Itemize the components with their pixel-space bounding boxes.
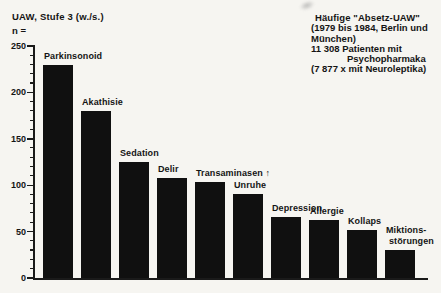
y-axis-minor-tick (30, 157, 33, 158)
y-tick-label-150: 150 (5, 134, 26, 144)
y-axis-minor-tick (30, 240, 33, 241)
bar-label-kollaps: Kollaps (348, 216, 381, 227)
y-tick-label-100: 100 (5, 180, 26, 190)
y-tick-label-250: 250 (5, 41, 26, 51)
bar-depression (271, 217, 301, 278)
y-axis-minor-tick (30, 64, 33, 65)
y-axis-minor-tick (30, 147, 33, 148)
y-axis-minor-tick (30, 82, 33, 83)
bar-delir (157, 178, 187, 278)
bar-unruhe (233, 194, 263, 278)
y-axis-minor-tick (30, 175, 33, 176)
bar-transaminasen (195, 182, 225, 278)
y-axis-major-tick (27, 231, 33, 233)
y-axis-minor-tick (30, 110, 33, 111)
scanned-chart-page: UAW, Stufe 3 (w./s.) n = Häufige "Absetz… (0, 0, 441, 293)
y-axis-minor-tick (30, 268, 33, 269)
y-axis-minor-tick (30, 222, 33, 223)
y-axis-minor-tick (30, 120, 33, 121)
y-tick-label-200: 200 (5, 87, 26, 97)
bar-allergie (309, 220, 339, 278)
bar-label-miktionsstorungen: Miktions-störungen (386, 225, 434, 247)
y-axis-line (33, 45, 35, 279)
x-axis-line (33, 278, 428, 280)
y-axis-minor-tick (30, 55, 33, 56)
bar-chart: 050100150200250ParkinsonoidAkathisieSeda… (0, 0, 441, 293)
y-axis-major-tick (27, 45, 33, 47)
y-axis-minor-tick (30, 212, 33, 213)
bar-miktionsstorungen (385, 250, 415, 278)
bar-label-unruhe: Unruhe (234, 180, 266, 191)
y-tick-label-0: 0 (5, 273, 26, 283)
bar-label-sedation: Sedation (120, 148, 159, 159)
y-axis-minor-tick (30, 203, 33, 204)
y-axis-minor-tick (30, 73, 33, 74)
bar-label-allergie: Allergie (310, 206, 344, 217)
bar-label-transaminasen: Transaminasen ↑ (196, 168, 270, 179)
y-axis-minor-tick (30, 129, 33, 130)
bar-kollaps (347, 230, 377, 278)
y-axis-minor-tick (30, 101, 33, 102)
bar-label-delir: Delir (158, 164, 179, 175)
y-axis-major-tick (27, 185, 33, 187)
y-tick-label-50: 50 (5, 227, 26, 237)
y-axis-major-tick (27, 277, 33, 279)
y-axis-minor-tick (30, 194, 33, 195)
y-axis-major-tick (27, 138, 33, 140)
bar-akathisie (81, 111, 111, 278)
y-axis-major-tick (27, 92, 33, 94)
y-axis-minor-tick (30, 259, 33, 260)
bar-parkinsonoid (43, 65, 73, 278)
y-axis-minor-tick (30, 166, 33, 167)
bar-sedation (119, 162, 149, 278)
bar-label-parkinsonoid: Parkinsonoid (44, 51, 102, 62)
y-axis-minor-tick (30, 249, 33, 250)
bar-label-akathisie: Akathisie (82, 97, 123, 108)
